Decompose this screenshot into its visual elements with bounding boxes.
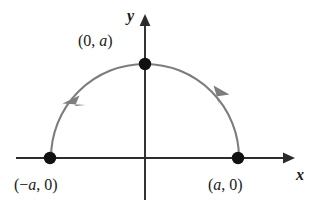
left-label-open: (− — [14, 176, 28, 193]
right-label-close: , 0) — [221, 176, 242, 193]
x-axis-arrowhead-icon — [283, 153, 295, 164]
x-axis-label: x — [296, 167, 304, 183]
apex-label-open: (0, — [78, 32, 99, 49]
right-endpoint-label: (a, 0) — [208, 177, 243, 193]
right-endpoint-dot — [232, 152, 244, 164]
apex-label-close: ) — [107, 32, 112, 49]
left-endpoint-label: (−a, 0) — [14, 177, 58, 193]
y-axis-arrowhead-icon — [140, 14, 151, 26]
left-endpoint-dot — [44, 152, 56, 164]
left-label-close: , 0) — [36, 176, 57, 193]
figure-canvas: (0, a) (−a, 0) (a, 0) y x — [0, 0, 323, 216]
y-axis-label: y — [127, 8, 134, 24]
apex-point-dot — [139, 58, 151, 70]
apex-point-label: (0, a) — [78, 33, 113, 49]
